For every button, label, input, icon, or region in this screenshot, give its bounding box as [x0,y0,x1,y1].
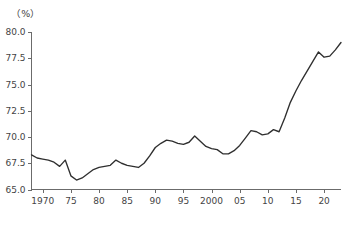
x-axis-tick-label: 20 [318,196,329,206]
x-axis-tick-label: 10 [262,196,273,206]
x-axis-ticks [44,190,325,194]
x-axis-tick-label: 90 [150,196,161,206]
y-axis-tick-label: 80.0 [5,27,25,37]
x-axis-tick-label: 2000 [200,196,223,206]
x-axis-tick-label: 85 [121,196,132,206]
y-axis-tick-label: 67.5 [5,158,25,168]
x-axis-tick-label: 95 [178,196,189,206]
y-axis-tick-label: 75.0 [5,80,25,90]
line-chart: （%） 65.067.570.072.575.077.580.0 1970758… [0,0,347,225]
data-series-line [32,43,342,181]
x-axis-tick-label: 75 [65,196,76,206]
chart-plot-area [0,0,347,225]
y-axis-ticks [28,33,32,191]
y-axis-tick-label: 77.5 [5,53,25,63]
x-axis-tick-label: 80 [93,196,104,206]
x-axis-tick-label: 1970 [31,196,54,206]
y-axis-tick-label: 72.5 [5,106,25,116]
x-axis-tick-label: 05 [234,196,245,206]
x-axis-tick-label: 15 [290,196,301,206]
y-axis-tick-label: 65.0 [5,185,25,195]
y-axis-tick-label: 70.0 [5,132,25,142]
